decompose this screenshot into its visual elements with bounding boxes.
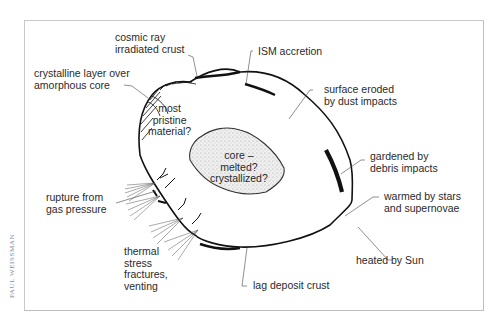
label-core: core – melted? crystallized?: [210, 150, 268, 185]
label-heated-by-sun: heated by Sun: [356, 255, 424, 267]
label-cosmic-ray-crust: cosmic ray irradiated crust: [115, 32, 184, 55]
label-ism-accretion: ISM accretion: [258, 46, 322, 58]
fracture-branches: [153, 168, 201, 224]
label-rupture: rupture from gas pressure: [46, 192, 107, 215]
label-thermal-stress: thermal stress fractures, venting: [124, 246, 168, 292]
label-warmed: warmed by stars and supernovae: [384, 191, 461, 214]
gardened-crust: [326, 150, 342, 192]
photo-credit: PAUL WEISSMAN: [8, 234, 16, 298]
label-crystalline-layer: crystalline layer over amorphous core: [34, 68, 130, 91]
label-gardened: gardened by debris impacts: [370, 151, 438, 174]
label-surface-eroded: surface eroded by dust impacts: [324, 84, 397, 107]
label-lag-deposit: lag deposit crust: [253, 280, 329, 292]
ism-accretion-crust: [245, 84, 275, 95]
label-pristine-material: most pristine material?: [148, 103, 191, 138]
